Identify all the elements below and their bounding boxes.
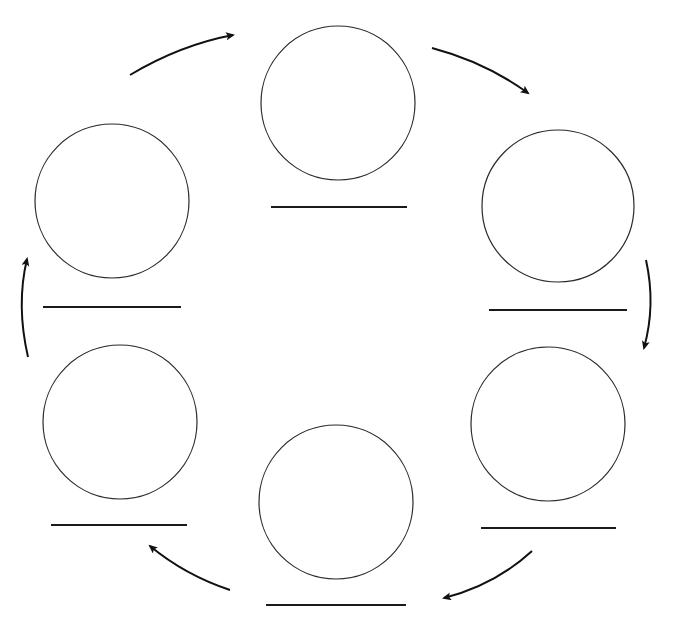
cycle-node-bottom	[259, 425, 413, 605]
curved-arrow-icon	[130, 35, 233, 75]
nodes	[35, 26, 634, 605]
node-circle	[43, 345, 197, 499]
node-circle	[482, 130, 634, 282]
cycle-node-bottom-left	[43, 345, 197, 525]
node-circle	[259, 425, 413, 579]
curved-arrow-icon	[644, 260, 651, 348]
curved-arrow-icon	[432, 48, 528, 93]
cycle-node-top	[261, 26, 415, 207]
curved-arrow-icon	[150, 546, 230, 590]
cycle-node-top-left	[35, 124, 189, 307]
node-circle	[35, 124, 189, 278]
cycle-diagram	[0, 0, 673, 628]
cycle-node-bottom-right	[471, 347, 625, 528]
node-circle	[471, 347, 625, 501]
curved-arrow-icon	[22, 259, 28, 357]
cycle-node-top-right	[482, 130, 634, 310]
curved-arrow-icon	[444, 551, 532, 598]
node-circle	[261, 26, 415, 180]
